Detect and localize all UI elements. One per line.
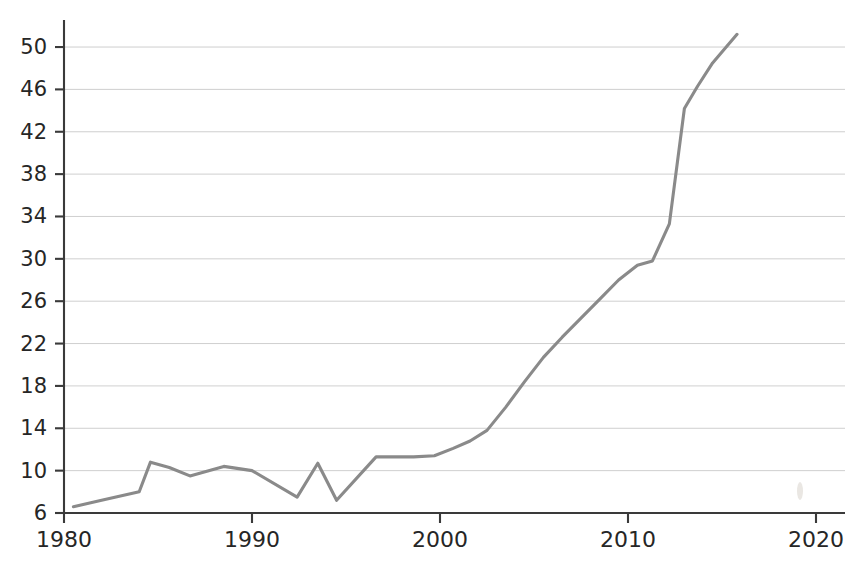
- y-tick-label: 10: [20, 459, 47, 483]
- scan-artifact: [797, 482, 803, 500]
- gridlines: [64, 47, 845, 471]
- y-tick-label: 18: [20, 374, 47, 398]
- x-tick-label: 2020: [788, 527, 844, 552]
- x-tick-label: 2010: [600, 527, 656, 552]
- y-tick-label: 34: [20, 204, 47, 228]
- y-tick-label: 30: [20, 247, 47, 271]
- x-tick-label: 1990: [224, 527, 280, 552]
- y-tick-label: 46: [20, 77, 47, 101]
- y-tick-label: 14: [20, 416, 47, 440]
- chart-canvas: 61014182226303438424650 1980199020002010…: [0, 0, 864, 574]
- line-chart: 61014182226303438424650 1980199020002010…: [0, 0, 864, 574]
- x-axis-ticks: 19801990200020102020: [36, 513, 844, 552]
- x-tick-label: 1980: [36, 527, 92, 552]
- x-tick-label: 2000: [412, 527, 468, 552]
- y-tick-label: 50: [20, 35, 47, 59]
- y-tick-label: 26: [20, 289, 47, 313]
- y-tick-label: 38: [20, 162, 47, 186]
- y-tick-label: 6: [34, 501, 47, 525]
- y-tick-label: 42: [20, 120, 47, 144]
- y-tick-label: 22: [20, 332, 47, 356]
- data-series-line: [73, 34, 737, 506]
- y-axis-ticks: 61014182226303438424650: [20, 35, 64, 525]
